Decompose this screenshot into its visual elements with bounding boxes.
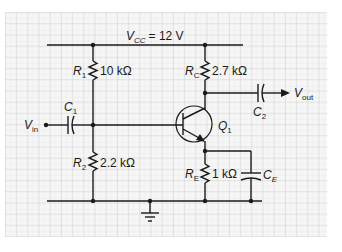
circuit-diagram: VCC= 12 V R1 10 kΩ Vin C1 R2 2.2 kΩ xyxy=(0,0,342,252)
rc-value: 2.7 kΩ xyxy=(212,64,247,78)
r2-value: 2.2 kΩ xyxy=(100,156,135,170)
r1-value: 10 kΩ xyxy=(100,64,132,78)
re-value: 1 kΩ xyxy=(212,167,237,181)
